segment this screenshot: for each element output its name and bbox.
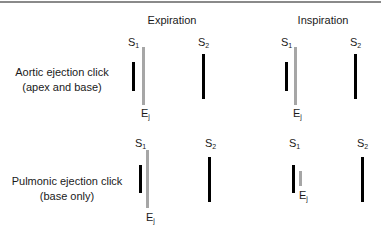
ej-label: Ej	[141, 107, 150, 120]
ejection-click-bar	[294, 47, 297, 105]
s2-label: S2	[350, 36, 361, 49]
s2-label: S2	[357, 137, 368, 150]
top-rule	[0, 1, 381, 3]
ej-label: Ej	[293, 107, 302, 120]
row-label-aortic-line1: Aortic ejection click	[15, 65, 109, 80]
ejection-click-bar	[146, 150, 149, 208]
row-label-aortic: Aortic ejection click (apex and base)	[15, 65, 109, 95]
s1-bar	[285, 62, 288, 91]
s1-label: S1	[128, 36, 139, 49]
ej-label: Ej	[299, 189, 308, 202]
s1-label: S1	[289, 137, 300, 150]
s2-label: S2	[205, 137, 216, 150]
s1-bar	[139, 165, 142, 193]
s2-bar	[361, 157, 364, 202]
s2-bar	[354, 54, 357, 99]
row-label-pulmonic-line2: (base only)	[12, 189, 123, 204]
s2-bar	[208, 157, 211, 202]
column-title-inspiration: Inspiration	[298, 14, 349, 26]
ejection-click-bar	[299, 171, 302, 186]
s1-label: S1	[135, 137, 146, 150]
s2-bar	[202, 54, 205, 99]
s2-label: S2	[198, 36, 209, 49]
column-title-expiration: Expiration	[148, 14, 197, 26]
row-label-pulmonic-line1: Pulmonic ejection click	[12, 174, 123, 189]
ejection-click-bar	[142, 47, 145, 105]
row-label-pulmonic: Pulmonic ejection click (base only)	[12, 174, 123, 204]
ej-label: Ej	[146, 211, 155, 224]
s1-bar	[292, 165, 295, 193]
row-label-aortic-line2: (apex and base)	[15, 80, 109, 95]
s1-bar	[132, 62, 135, 91]
s1-label: S1	[281, 36, 292, 49]
